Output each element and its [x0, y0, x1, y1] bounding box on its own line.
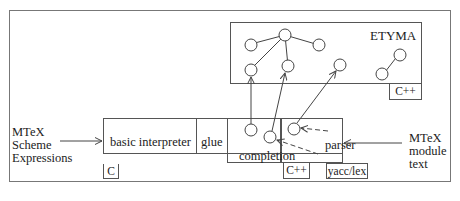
parser-dashed-arrow: [277, 140, 318, 154]
etyma-node: [279, 29, 291, 41]
diagram-graphics: [0, 0, 460, 201]
link-arrow: [272, 73, 285, 131]
parser-dashed-arrow: [301, 128, 328, 131]
etyma-node: [394, 49, 406, 61]
etyma-node: [313, 39, 325, 51]
caption-fragment: [8, 196, 208, 201]
etyma-node: [245, 64, 257, 76]
completion-node: [264, 131, 276, 143]
completion-node: [245, 124, 257, 136]
completion-node: [288, 123, 300, 135]
etyma-node: [282, 60, 294, 72]
etyma-edge: [251, 35, 285, 69]
etyma-node: [334, 59, 346, 71]
etyma-node: [376, 68, 388, 80]
etyma-node: [245, 39, 257, 51]
link-arrow: [297, 71, 336, 123]
